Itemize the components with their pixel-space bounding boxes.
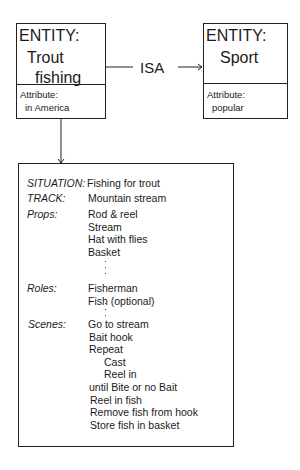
scenes-item: Reel in [104, 368, 137, 380]
scenes-label: Scenes: [28, 318, 66, 330]
entity-sport-divider [204, 83, 287, 84]
entity-sport-attr-label: Attribute: [207, 89, 245, 101]
ellipsis-dot [105, 303, 106, 304]
scenes-item: until Bite or no Bait [89, 381, 177, 393]
entity-sport-name: Sport [220, 48, 258, 67]
entity-trout-divider [17, 84, 105, 85]
situation-label: SITUATION: [27, 177, 85, 189]
entity-trout-fishing: ENTITY: Trout fishing Attribute: in Amer… [16, 23, 106, 119]
entity-trout-header: ENTITY: [19, 26, 79, 45]
scenes-item: Bait hook [89, 331, 133, 343]
scenes-item: Cast [104, 356, 126, 368]
situation-value: Fishing for trout [87, 177, 160, 189]
entity-trout-attr-label: Attribute: [20, 89, 58, 101]
props-item: Stream [88, 221, 122, 233]
ellipsis-dot [105, 267, 106, 268]
track-label: TRACK: [27, 192, 66, 204]
props-item: Hat with flies [88, 233, 148, 245]
scenes-item: Store fish in basket [90, 419, 179, 431]
entity-trout-name-line1: Trout [27, 48, 64, 67]
roles-item: Fisherman [88, 282, 138, 294]
entity-sport: ENTITY: Sport Attribute: popular [203, 23, 288, 119]
scenes-item: Remove fish from hook [90, 406, 198, 418]
entity-sport-header: ENTITY: [206, 26, 266, 45]
props-item: Basket [88, 246, 120, 258]
scenes-item: Repeat [89, 343, 123, 355]
ellipsis-dot [105, 273, 106, 274]
roles-label: Roles: [27, 282, 57, 294]
entity-trout-attr-value: in America [25, 102, 69, 114]
ellipsis-dot [105, 309, 106, 310]
ellipsis-dot [105, 315, 106, 316]
roles-item: Fish (optional) [88, 295, 155, 307]
ellipsis-dot [105, 261, 106, 262]
scenes-item: Go to stream [88, 318, 149, 330]
props-label: Props: [27, 208, 57, 220]
entity-sport-attr-value: popular [212, 102, 244, 114]
track-value: Mountain stream [88, 192, 166, 204]
scenes-item: Reel in fish [90, 394, 142, 406]
isa-relation-label: ISA [140, 59, 164, 76]
props-item: Rod & reel [88, 208, 138, 220]
